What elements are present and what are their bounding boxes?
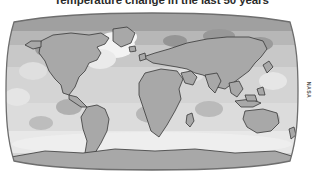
nasa-credit: NASA: [303, 76, 315, 110]
world-map: [5, 11, 299, 172]
temperature-change-figure: Temperature change in the last 50 years: [0, 0, 323, 183]
figure-title-container: Temperature change in the last 50 years: [0, 0, 323, 9]
nasa-credit-label: NASA: [306, 73, 312, 107]
scan-tone-overlay: [5, 11, 299, 172]
map-data-layer: [5, 11, 299, 172]
page-title: Temperature change in the last 50 years: [0, 0, 323, 9]
world-map-svg: [5, 11, 299, 172]
